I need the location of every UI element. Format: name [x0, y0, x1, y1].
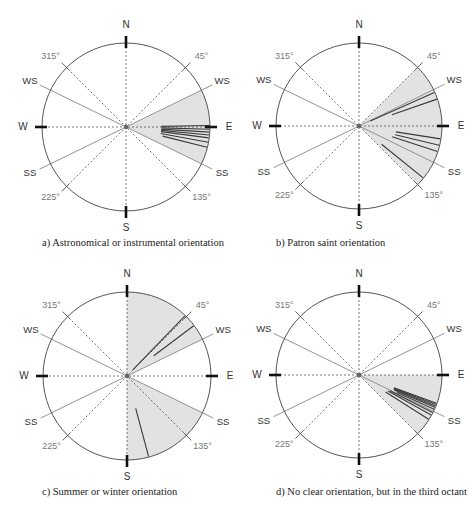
- solstice-label-winter: WS: [256, 323, 271, 334]
- degree-label-315: 315°: [41, 51, 60, 61]
- label-north: N: [355, 268, 362, 279]
- solstice-label-summer: SS: [448, 415, 461, 426]
- degree-label-315: 315°: [275, 300, 294, 310]
- shaded-sector: [359, 375, 442, 434]
- degree-label-225: 225°: [41, 192, 60, 202]
- solstice-label-winter: WS: [447, 74, 462, 85]
- solstice-label-winter: WS: [447, 323, 462, 334]
- diagram-panel-a: NESW45°135°225°315°WSSSWSSS: [18, 19, 232, 233]
- degree-label-315: 315°: [42, 300, 61, 310]
- label-west: W: [19, 370, 29, 381]
- diagram-panel-c: NESW45°135°225°315°WSSSWSSS: [19, 268, 233, 482]
- degree-label-135: 135°: [424, 439, 443, 449]
- center-point: [124, 125, 128, 129]
- degree-label-45: 45°: [427, 51, 441, 61]
- solstice-label-summer: SS: [216, 167, 229, 178]
- label-north: N: [122, 19, 129, 30]
- solstice-label-winter: WS: [22, 75, 37, 86]
- label-south: S: [124, 471, 131, 482]
- center-point: [357, 124, 361, 128]
- label-west: W: [252, 369, 262, 380]
- solstice-label-summer: SS: [257, 415, 270, 426]
- label-south: S: [356, 220, 363, 231]
- label-north: N: [355, 19, 362, 30]
- label-north: N: [123, 268, 130, 279]
- degree-label-225: 225°: [42, 441, 61, 451]
- degree-label-315: 315°: [275, 51, 294, 61]
- label-east: E: [458, 369, 465, 380]
- degree-label-135: 135°: [192, 192, 211, 202]
- solstice-label-winter: WS: [23, 324, 38, 335]
- caption-c: c) Summer or winter orientation: [42, 486, 177, 497]
- solstice-label-summer: SS: [448, 166, 461, 177]
- shaded-sector: [127, 292, 202, 376]
- label-west: W: [18, 121, 28, 132]
- solstice-label-summer: SS: [217, 416, 230, 427]
- orientation-diagrams-figure: NESW45°135°225°315°WSSSWSSSNESW45°135°22…: [0, 0, 476, 514]
- degree-label-45: 45°: [196, 300, 210, 310]
- degree-label-225: 225°: [275, 190, 294, 200]
- degree-label-45: 45°: [195, 51, 209, 61]
- diagram-panel-b: NESW45°135°225°315°WSSSWSSS: [252, 19, 464, 231]
- diagram-panel-d: NESW45°135°225°315°WSSSWSSS: [252, 268, 464, 480]
- label-east: E: [226, 121, 233, 132]
- center-point: [357, 373, 361, 377]
- label-south: S: [356, 469, 363, 480]
- degree-label-135: 135°: [424, 190, 443, 200]
- label-west: W: [252, 120, 262, 131]
- degree-label-225: 225°: [275, 439, 294, 449]
- label-east: E: [227, 370, 234, 381]
- caption-b: b) Patron saint orientation: [276, 237, 385, 248]
- degree-label-135: 135°: [193, 441, 212, 451]
- solstice-label-summer: SS: [24, 167, 37, 178]
- center-point: [125, 374, 129, 378]
- caption-d: d) No clear orientation, but in the thir…: [276, 486, 467, 497]
- degree-label-45: 45°: [427, 300, 441, 310]
- solstice-label-winter: WS: [215, 324, 230, 335]
- caption-a: a) Astronomical or instrumental orientat…: [42, 237, 224, 248]
- solstice-label-winter: WS: [214, 75, 229, 86]
- label-south: S: [123, 222, 130, 233]
- solstice-label-summer: SS: [257, 166, 270, 177]
- solstice-label-winter: WS: [256, 74, 271, 85]
- label-east: E: [458, 120, 465, 131]
- solstice-label-summer: SS: [25, 416, 38, 427]
